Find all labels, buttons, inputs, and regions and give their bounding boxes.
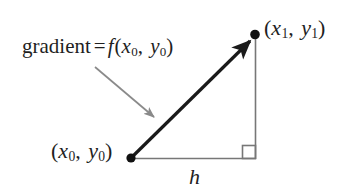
comma: , — [138, 34, 145, 58]
end-point-label: (x1, y1) — [264, 17, 325, 41]
y-symbol: y — [301, 15, 311, 40]
x-symbol: x — [58, 138, 68, 163]
gradient-triangle-figure: gradient=f(x0, y0) (x1, y1) (x0, y0) h — [0, 0, 355, 192]
open-paren: ( — [115, 34, 122, 58]
comma: , — [75, 138, 83, 163]
variable-x0: x0 — [58, 138, 75, 163]
run-length-label: h — [189, 166, 200, 188]
close-paren: ) — [318, 15, 325, 40]
gradient-equation-label: gradient=f(x0, y0) — [22, 36, 173, 58]
function-symbol: f — [108, 34, 115, 58]
start-point-label: (x0, y0) — [51, 140, 112, 164]
y-subscript: 0 — [98, 149, 105, 164]
variable-x1: x1 — [271, 15, 288, 40]
variable-y1: y1 — [301, 15, 318, 40]
variable-y0: y0 — [88, 138, 105, 163]
variable-x0: x0 — [122, 34, 138, 58]
x-symbol: x — [271, 15, 281, 40]
callout-pointer-arrow — [95, 67, 154, 117]
close-paren: ) — [166, 34, 173, 58]
gradient-vector-arrow — [132, 41, 250, 157]
comma: , — [288, 15, 296, 40]
right-angle-marker — [243, 146, 256, 159]
gradient-word: gradient — [22, 34, 91, 58]
close-paren: ) — [105, 138, 112, 163]
x-symbol: x — [122, 34, 131, 58]
y-symbol: y — [88, 138, 98, 163]
end-point-dot — [250, 30, 260, 40]
variable-y0: y0 — [150, 34, 166, 58]
equals-sign: = — [91, 34, 108, 58]
start-point-dot — [126, 153, 135, 162]
y-subscript: 1 — [311, 26, 318, 41]
x-subscript: 0 — [131, 44, 138, 59]
